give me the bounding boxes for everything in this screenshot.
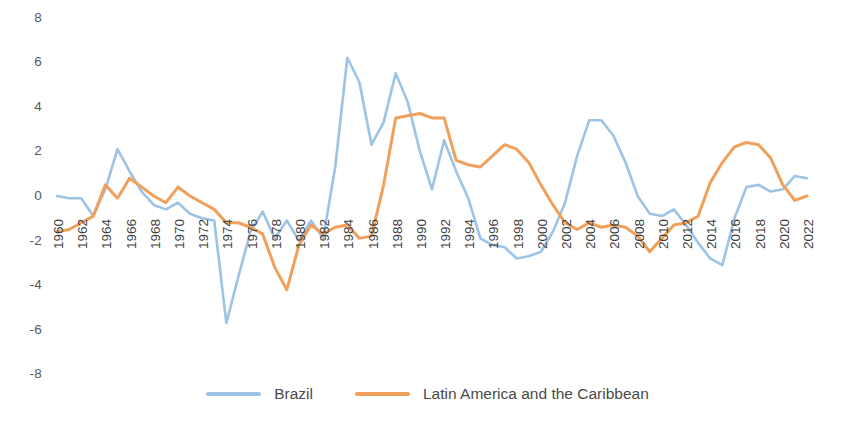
- x-tick-label: 2018: [754, 219, 768, 249]
- x-tick-label: 2008: [633, 219, 647, 249]
- legend-label: Latin America and the Caribbean: [423, 386, 649, 402]
- x-tick-label: 1988: [391, 219, 405, 249]
- x-tick-label: 1998: [512, 219, 526, 249]
- y-tick-label: 8: [8, 11, 42, 25]
- y-tick-label: -4: [8, 278, 42, 292]
- x-tick-label: 2014: [705, 219, 719, 249]
- x-tick-label: 1974: [221, 219, 235, 249]
- line-chart: 86420-2-4-6-8 19601962196419661968197019…: [0, 0, 855, 429]
- x-tick-label: 2004: [584, 219, 598, 249]
- x-tick-label: 1962: [76, 219, 90, 249]
- chart-legend: BrazilLatin America and the Caribbean: [0, 386, 855, 402]
- y-tick-label: 4: [8, 100, 42, 114]
- x-tick-label: 1972: [197, 219, 211, 249]
- x-tick-label: 2000: [536, 219, 550, 249]
- legend-line-swatch-orange-icon: [355, 392, 410, 396]
- x-tick-label: 2010: [657, 219, 671, 249]
- plot-area: [0, 0, 855, 429]
- y-tick-label: -8: [8, 367, 42, 381]
- x-tick-label: 2020: [778, 219, 792, 249]
- y-tick-label: 6: [8, 55, 42, 69]
- x-tick-label: 1996: [487, 219, 501, 249]
- y-tick-label: 0: [8, 189, 42, 203]
- y-tick-label: 2: [8, 144, 42, 158]
- x-tick-label: 1966: [125, 219, 139, 249]
- x-tick-label: 1990: [415, 219, 429, 249]
- x-tick-label: 1970: [173, 219, 187, 249]
- y-tick-label: -6: [8, 323, 42, 337]
- x-tick-label: 1980: [294, 219, 308, 249]
- legend-item-brazil[interactable]: Brazil: [206, 386, 313, 402]
- x-tick-label: 2006: [608, 219, 622, 249]
- x-tick-label: 2022: [802, 219, 816, 249]
- legend-line-swatch-blue-icon: [206, 392, 261, 396]
- x-tick-label: 2016: [729, 219, 743, 249]
- x-tick-label: 1964: [100, 219, 114, 249]
- series-line-latin-america-caribbean: [57, 113, 807, 289]
- x-tick-label: 1984: [342, 219, 356, 249]
- x-tick-label: 1978: [270, 219, 284, 249]
- legend-label: Brazil: [274, 386, 313, 402]
- y-tick-label: -2: [8, 234, 42, 248]
- legend-item-latin-america-caribbean[interactable]: Latin America and the Caribbean: [355, 386, 649, 402]
- x-tick-label: 1960: [52, 219, 66, 249]
- x-tick-label: 1994: [463, 219, 477, 249]
- x-tick-label: 1976: [246, 219, 260, 249]
- series-line-brazil: [57, 58, 807, 323]
- x-tick-label: 1992: [439, 219, 453, 249]
- x-tick-label: 1986: [367, 219, 381, 249]
- x-tick-label: 2012: [681, 219, 695, 249]
- x-tick-label: 1982: [318, 219, 332, 249]
- x-tick-label: 2002: [560, 219, 574, 249]
- x-tick-label: 1968: [149, 219, 163, 249]
